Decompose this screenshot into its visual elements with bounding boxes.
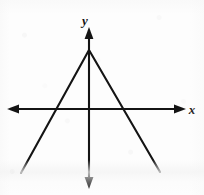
curve-right-ray — [89, 50, 160, 172]
x-axis-left-arrowhead — [7, 105, 19, 114]
y-axis-label: y — [80, 13, 88, 28]
y-axis-down-arrowhead — [85, 177, 94, 189]
x-axis-label: x — [188, 102, 196, 117]
curve-left-ray — [21, 50, 89, 173]
graph-curve — [21, 50, 160, 173]
x-axis-right-arrowhead — [174, 105, 186, 114]
x-axis — [7, 105, 186, 114]
coordinate-plane-svg: y x — [0, 0, 204, 195]
graph-figure: y x — [0, 0, 204, 195]
y-axis-up-arrowhead — [85, 27, 94, 39]
